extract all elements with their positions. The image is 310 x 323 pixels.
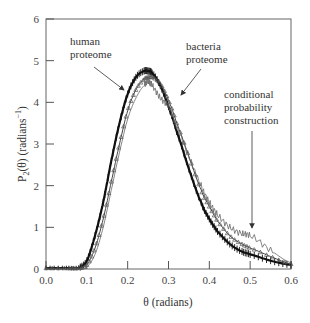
annotation-human: human proteome	[70, 35, 124, 90]
annotation-human-line2: proteome	[70, 48, 112, 60]
x-tick-label: 0.0	[39, 274, 53, 286]
x-tick-label: 0.5	[243, 274, 257, 286]
x-tick-label: 0.1	[80, 274, 94, 286]
annotation-bacteria-line1: bacteria	[186, 40, 221, 52]
arrow-icon	[181, 69, 201, 95]
y-tick-label: 5	[34, 55, 40, 67]
annotation-cond-line3: construction	[224, 114, 279, 126]
y-tick-label: 3	[34, 138, 40, 150]
x-tick-label: 0.2	[121, 274, 135, 286]
y-tick-label: 1	[34, 221, 40, 233]
x-axis-label: θ (radians)	[143, 296, 192, 309]
annotation-bacteria: bacteria proteome	[181, 40, 228, 95]
annotation-conditional: conditional probability construction	[224, 88, 279, 228]
x-axis: 0.00.10.20.30.40.50.6	[39, 261, 298, 286]
y-tick-label: 4	[34, 96, 40, 108]
annotation-human-line1: human	[70, 35, 100, 47]
y-axis: 0123456	[34, 13, 55, 275]
x-tick-label: 0.3	[162, 274, 176, 286]
y-tick-label: 6	[34, 13, 40, 25]
annotation-bacteria-line2: proteome	[186, 53, 228, 65]
y-tick-label: 2	[34, 180, 40, 192]
arrow-icon	[94, 67, 124, 90]
annotation-cond-line1: conditional	[224, 88, 274, 100]
annotation-cond-line2: probability	[224, 101, 273, 113]
x-tick-label: 0.6	[284, 274, 298, 286]
x-tick-label: 0.4	[202, 274, 216, 286]
svg-text:P2(θ) (radians−1): P2(θ) (radians−1)	[14, 106, 31, 182]
y-axis-label: P2(θ) (radians−1)	[14, 106, 31, 182]
chart: 0123456 0.00.10.20.30.40.50.6 human prot…	[0, 0, 310, 323]
